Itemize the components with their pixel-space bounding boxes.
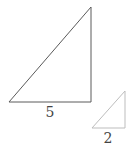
similar-triangles-diagram: 5 2 (0, 0, 133, 145)
large-triangle (9, 7, 91, 102)
small-triangle (92, 91, 125, 128)
small-triangle-base-label: 2 (104, 130, 113, 145)
large-triangle-base-label: 5 (46, 104, 55, 120)
